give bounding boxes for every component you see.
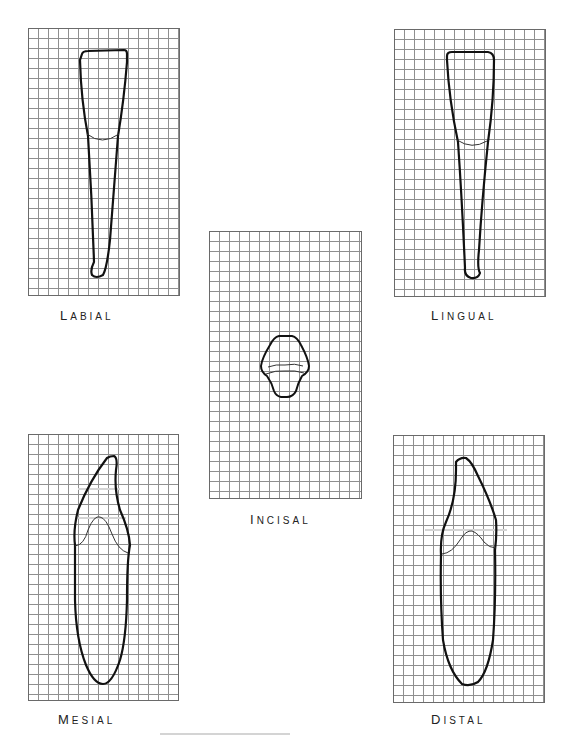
distal-label: DISTAL — [431, 712, 485, 727]
bottom-scan-artifact — [160, 733, 290, 735]
distal-tooth-outline — [0, 0, 565, 736]
